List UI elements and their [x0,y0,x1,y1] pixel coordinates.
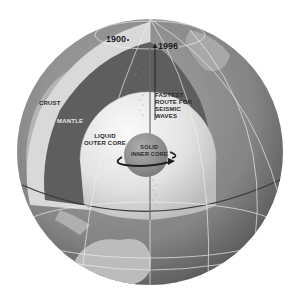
outer-core-label: LIQUID OUTER CORE [84,133,126,147]
year-1900-label: 1900 [106,34,126,44]
earth-interior-diagram: 1900 1996 CRUST MANTLE LIQUID OUTER CORE… [0,0,297,306]
inner-core-label: SOLID INNER CORE [131,144,168,158]
fastest-route-label: FASTEST ROUTE FOR SEISMIC WAVES [155,92,192,120]
mantle-label: MANTLE [57,118,83,125]
crust-label: CRUST [39,100,61,107]
year-1996-label: 1996 [158,41,178,51]
